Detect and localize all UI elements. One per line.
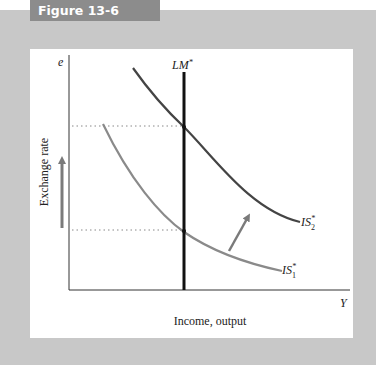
y-axis-label: Exchange rate <box>37 138 51 206</box>
lm-label: LM* <box>171 58 193 72</box>
x-axis-symbol: Y <box>340 296 348 310</box>
is2-label: IS*2 <box>300 214 315 232</box>
x-axis-label: Income, output <box>174 314 247 328</box>
y-axis-symbol: e <box>58 55 64 69</box>
is1-curve <box>103 124 282 271</box>
equilibrium-point-2 <box>182 125 186 129</box>
mundell-fleming-diagram: e Y Income, output Exchange rate LM* IS*… <box>0 0 376 365</box>
equilibrium-point-1 <box>182 229 186 233</box>
is2-curve <box>133 68 300 222</box>
shift-arrow-icon <box>229 217 248 251</box>
is1-label: IS*1 <box>281 262 296 280</box>
